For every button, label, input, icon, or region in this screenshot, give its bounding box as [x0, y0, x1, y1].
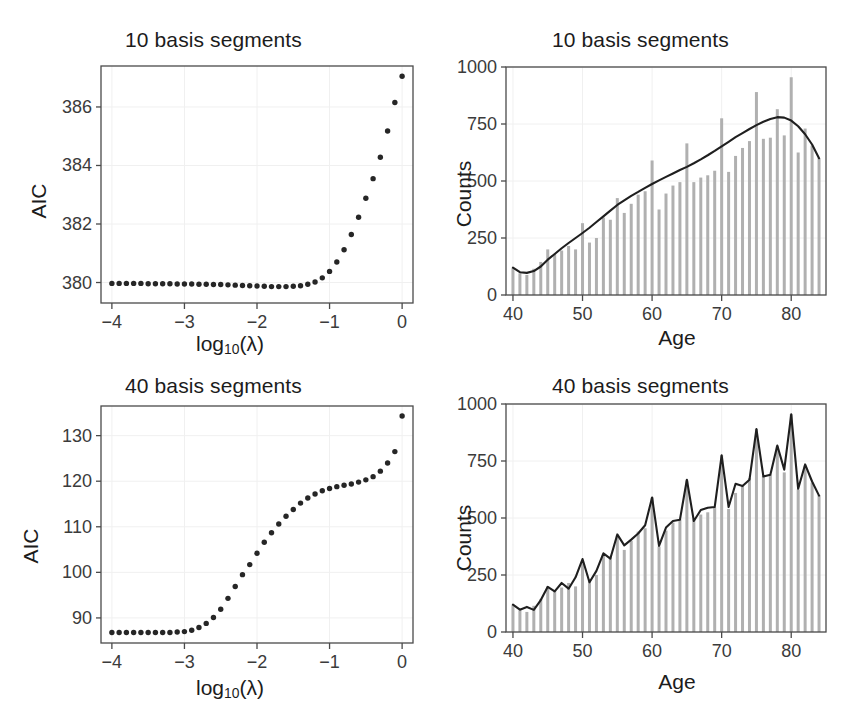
- histogram-bar: [699, 178, 702, 295]
- axis-title-y-top-right: Counts: [452, 129, 476, 259]
- histogram-bar: [518, 610, 521, 632]
- histogram-bar: [546, 586, 549, 632]
- data-point: [204, 282, 209, 287]
- x-tick-label: 80: [781, 641, 801, 661]
- histogram-bar: [665, 531, 668, 632]
- axis-title-x-bottom-left: log10(λ): [40, 676, 420, 701]
- histogram-bar: [671, 523, 674, 632]
- data-point: [291, 284, 296, 289]
- data-point: [116, 630, 121, 635]
- histogram-bar: [699, 515, 702, 632]
- data-point: [254, 283, 259, 288]
- histogram-bar: [567, 246, 570, 295]
- data-point: [327, 269, 332, 274]
- data-point: [283, 514, 288, 519]
- histogram-bar: [776, 446, 779, 632]
- histogram-bar: [692, 182, 695, 295]
- histogram-bar: [797, 153, 800, 296]
- data-point: [211, 615, 216, 620]
- x-tick-label: −3: [174, 312, 195, 332]
- data-point: [131, 281, 136, 286]
- data-point: [341, 483, 346, 488]
- histogram-bar: [651, 497, 654, 632]
- histogram-bar: [748, 478, 751, 632]
- histogram-bar: [776, 109, 779, 295]
- histogram-bar: [678, 519, 681, 632]
- data-point: [378, 155, 383, 160]
- histogram-bar: [755, 429, 758, 632]
- data-point: [138, 630, 143, 635]
- data-point: [247, 283, 252, 288]
- histogram-bar: [644, 528, 647, 632]
- figure-root: 10 basis segments 380382384386−4−3−2−10 …: [0, 0, 854, 716]
- data-point: [138, 281, 143, 286]
- data-point: [174, 281, 179, 286]
- histogram-bar: [630, 204, 633, 295]
- histogram-bar: [588, 243, 591, 295]
- histogram-bar: [678, 182, 681, 295]
- histogram-bar: [630, 541, 633, 632]
- histogram-bar: [637, 532, 640, 632]
- data-point: [153, 630, 158, 635]
- y-tick-label: 750: [467, 451, 497, 471]
- data-point: [392, 449, 397, 454]
- data-point: [334, 259, 339, 264]
- xlabel-lambda: (λ): [239, 332, 264, 355]
- histogram-bar: [790, 414, 793, 632]
- histogram-bar: [769, 475, 772, 632]
- y-tick-label: 382: [62, 214, 92, 234]
- xlabel-log: log: [196, 332, 224, 355]
- histogram-bar: [713, 508, 716, 632]
- histogram-bar: [720, 455, 723, 632]
- plot-aic-10-basis: 380382384386−4−3−2−10: [0, 14, 427, 358]
- plot-counts-40-basis: 025050075010004050607080: [427, 366, 854, 710]
- plot-aic-40-basis: 90100110120130−4−3−2−10: [0, 366, 427, 710]
- data-point: [305, 282, 310, 287]
- data-point: [312, 491, 317, 496]
- histogram-bar: [741, 148, 744, 295]
- histogram-bar: [804, 129, 807, 295]
- data-point: [349, 232, 354, 237]
- data-point: [124, 630, 129, 635]
- data-point: [392, 100, 397, 105]
- x-tick-label: −1: [319, 652, 340, 672]
- y-tick-label: 120: [62, 471, 92, 491]
- data-point: [182, 281, 187, 286]
- histogram-bar: [734, 156, 737, 295]
- panel-top-left: 10 basis segments 380382384386−4−3−2−10 …: [0, 14, 427, 358]
- histogram-bar: [525, 612, 528, 632]
- histogram-bar: [553, 254, 556, 295]
- histogram-bar: [539, 599, 542, 632]
- data-point: [269, 530, 274, 535]
- histogram-bar: [609, 220, 612, 295]
- data-point: [240, 572, 245, 577]
- x-tick-label: −1: [319, 312, 340, 332]
- histogram-bar: [588, 580, 591, 632]
- histogram-bar: [567, 583, 570, 632]
- histogram-bar: [783, 135, 786, 295]
- xlabel-log: log: [196, 676, 224, 699]
- data-point: [196, 282, 201, 287]
- x-tick-label: −2: [247, 652, 268, 672]
- x-tick-label: 70: [712, 641, 732, 661]
- axis-title-x-top-right: Age: [487, 326, 854, 350]
- histogram-bar: [706, 175, 709, 295]
- data-point: [341, 247, 346, 252]
- histogram-bar: [748, 141, 751, 295]
- xlabel-lambda: (λ): [239, 676, 264, 699]
- data-point: [305, 495, 310, 500]
- histogram-bar: [804, 466, 807, 632]
- histogram-bar: [602, 554, 605, 632]
- data-point: [356, 479, 361, 484]
- xlabel-base: 10: [224, 341, 239, 357]
- x-tick-label: 0: [397, 652, 407, 672]
- data-point: [269, 284, 274, 289]
- data-point: [262, 540, 267, 545]
- data-point: [218, 282, 223, 287]
- x-tick-label: 40: [503, 641, 523, 661]
- data-point: [363, 477, 368, 482]
- histogram-bar: [581, 560, 584, 632]
- histogram-bar: [811, 146, 814, 295]
- data-point: [363, 196, 368, 201]
- histogram-bar: [713, 171, 716, 295]
